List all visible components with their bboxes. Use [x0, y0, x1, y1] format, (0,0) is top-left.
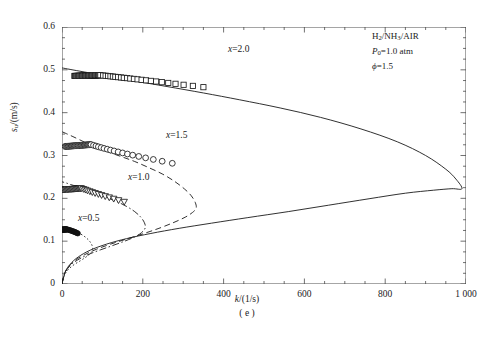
data-point	[190, 83, 195, 88]
series-label-x15: x=1.5	[166, 130, 187, 140]
data-point	[143, 155, 149, 161]
data-point	[181, 82, 186, 87]
series-label-x10: x=1.0	[128, 172, 149, 182]
y-tick-label-0.6: 0.6	[43, 21, 55, 31]
data-point	[125, 151, 131, 157]
data-point	[143, 78, 148, 83]
data-point	[159, 158, 165, 164]
data-point	[75, 231, 80, 236]
data-point	[173, 81, 178, 86]
annotation-equivalence-ratio: ϕ=1.5	[372, 60, 419, 73]
condition-annotation: H2/NH3/AIR P0=1.0 atm ϕ=1.5	[372, 30, 419, 72]
figure-subcaption: ( e )	[0, 308, 494, 318]
y-tick-label-0.3: 0.3	[43, 150, 55, 160]
y-tick-label-0: 0	[50, 278, 55, 288]
data-point	[130, 152, 136, 158]
data-point	[154, 79, 159, 84]
annotation-pressure: P0=1.0 atm	[372, 45, 419, 60]
data-point	[166, 80, 171, 85]
series-label-x20: x=2.0	[228, 44, 249, 54]
y-tick-label-0.5: 0.5	[43, 64, 55, 74]
y-tick-label-0.4: 0.4	[43, 107, 55, 117]
series-label-x05: x=0.5	[78, 213, 99, 223]
data-point	[201, 85, 206, 90]
data-point	[150, 157, 156, 163]
annotation-mixture: H2/NH3/AIR	[372, 30, 419, 45]
x-axis-label: k/(1/s)	[0, 294, 494, 304]
data-point	[148, 78, 153, 83]
y-tick-label-0.1: 0.1	[43, 235, 55, 245]
y-axis-label: su/(m/s)	[9, 62, 19, 132]
data-point	[136, 154, 142, 160]
y-tick-label-0.2: 0.2	[43, 192, 55, 202]
figure-container: 0 200 400 600 800 1 000 0 0.1 0.2 0.3 0.…	[0, 0, 494, 344]
data-point	[159, 80, 164, 85]
data-point	[169, 160, 175, 166]
